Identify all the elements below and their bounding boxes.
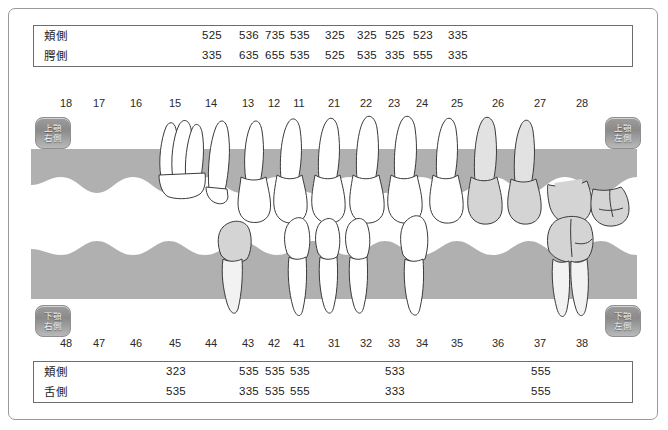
- lower-tooth-number-row: 48474645444342413132333435363738: [9, 337, 658, 353]
- lower-tooth-33[interactable]: [401, 216, 428, 315]
- upper-buccal-cells: 525536735535325325525523335: [34, 26, 632, 47]
- upper-tooth-15[interactable]: [206, 121, 229, 204]
- tooth-number-21[interactable]: 21: [321, 97, 347, 109]
- pocket-depth-lower-lingual-3[interactable]: 535: [161, 385, 191, 397]
- tooth-number-41[interactable]: 41: [286, 337, 312, 349]
- tooth-number-25[interactable]: 25: [444, 97, 470, 109]
- dental-chart-frame: 頬側 525536735535325325525523335 腭側 335635…: [8, 8, 658, 420]
- tooth-number-37[interactable]: 37: [527, 337, 553, 349]
- tooth-number-14[interactable]: 14: [198, 97, 224, 109]
- upper-tooth-26[interactable]: [591, 187, 629, 226]
- lower-tooth-43[interactable]: [285, 218, 310, 316]
- tooth-number-28[interactable]: 28: [569, 97, 595, 109]
- pocket-depth-upper-palatal-11[interactable]: 555: [408, 49, 438, 61]
- tooth-number-24[interactable]: 24: [409, 97, 435, 109]
- pocket-depth-upper-buccal-7[interactable]: 535: [285, 29, 315, 41]
- tooth-number-18[interactable]: 18: [53, 97, 79, 109]
- tooth-number-34[interactable]: 34: [409, 337, 435, 349]
- tooth-number-48[interactable]: 48: [53, 337, 79, 349]
- tooth-number-23[interactable]: 23: [381, 97, 407, 109]
- pocket-depth-lower-lingual-7[interactable]: 555: [285, 385, 315, 397]
- tooth-number-32[interactable]: 32: [353, 337, 379, 349]
- tooth-number-13[interactable]: 13: [235, 97, 261, 109]
- pocket-depth-upper-palatal-7[interactable]: 535: [285, 49, 315, 61]
- lower-lingual-cells: 535335535555333555: [34, 382, 632, 403]
- tooth-number-47[interactable]: 47: [86, 337, 112, 349]
- tooth-number-33[interactable]: 33: [381, 337, 407, 349]
- upper-perio-table: 頬側 525536735535325325525523335 腭側 335635…: [33, 25, 633, 67]
- tooth-number-27[interactable]: 27: [527, 97, 553, 109]
- dentition-diagram[interactable]: [9, 109, 658, 339]
- lower-buccal-cells: 323535535535533555: [34, 362, 632, 383]
- lower-tooth-37[interactable]: [547, 216, 593, 316]
- pocket-depth-upper-palatal-9[interactable]: 535: [352, 49, 382, 61]
- pocket-depth-upper-palatal-8[interactable]: 525: [320, 49, 350, 61]
- tooth-number-46[interactable]: 46: [123, 337, 149, 349]
- pocket-depth-upper-palatal-10[interactable]: 335: [380, 49, 410, 61]
- tooth-number-22[interactable]: 22: [353, 97, 379, 109]
- pocket-depth-upper-buccal-11[interactable]: 523: [408, 29, 438, 41]
- pocket-depth-upper-buccal-4[interactable]: 525: [197, 29, 227, 41]
- pocket-depth-lower-lingual-14[interactable]: 555: [526, 385, 556, 397]
- tooth-number-45[interactable]: 45: [162, 337, 188, 349]
- pocket-depth-upper-palatal-12[interactable]: 335: [443, 49, 473, 61]
- pocket-depth-lower-buccal-7[interactable]: 535: [285, 365, 315, 377]
- pocket-depth-upper-buccal-8[interactable]: 325: [320, 29, 350, 41]
- tooth-number-26[interactable]: 26: [485, 97, 511, 109]
- tooth-number-16[interactable]: 16: [123, 97, 149, 109]
- pocket-depth-lower-buccal-14[interactable]: 555: [526, 365, 556, 377]
- upper-tooth-16[interactable]: [159, 120, 205, 198]
- table-row: 舌側 535335535555333555: [34, 382, 632, 403]
- upper-palatal-cells: 335635655535525535335555335: [34, 46, 632, 67]
- pocket-depth-upper-buccal-10[interactable]: 525: [380, 29, 410, 41]
- lower-perio-table: 頬側 323535535535533555 舌側 535335535555333…: [33, 361, 633, 403]
- tooth-number-44[interactable]: 44: [198, 337, 224, 349]
- tooth-number-42[interactable]: 42: [261, 337, 287, 349]
- table-row: 頬側 525536735535325325525523335: [34, 26, 632, 47]
- table-row: 頬側 323535535535533555: [34, 362, 632, 383]
- pocket-depth-lower-buccal-10[interactable]: 533: [380, 365, 410, 377]
- table-row: 腭側 335635655535525535335555335: [34, 46, 632, 67]
- tooth-number-43[interactable]: 43: [235, 337, 261, 349]
- pocket-depth-upper-palatal-4[interactable]: 335: [197, 49, 227, 61]
- pocket-depth-lower-buccal-3[interactable]: 323: [161, 365, 191, 377]
- tooth-number-31[interactable]: 31: [321, 337, 347, 349]
- tooth-number-38[interactable]: 38: [569, 337, 595, 349]
- pocket-depth-upper-buccal-12[interactable]: 335: [443, 29, 473, 41]
- tooth-number-11[interactable]: 11: [286, 97, 312, 109]
- tooth-number-17[interactable]: 17: [86, 97, 112, 109]
- pocket-depth-upper-buccal-9[interactable]: 325: [352, 29, 382, 41]
- tooth-number-36[interactable]: 36: [485, 337, 511, 349]
- tooth-number-35[interactable]: 35: [444, 337, 470, 349]
- tooth-number-12[interactable]: 12: [261, 97, 287, 109]
- tooth-number-15[interactable]: 15: [162, 97, 188, 109]
- pocket-depth-lower-lingual-10[interactable]: 333: [380, 385, 410, 397]
